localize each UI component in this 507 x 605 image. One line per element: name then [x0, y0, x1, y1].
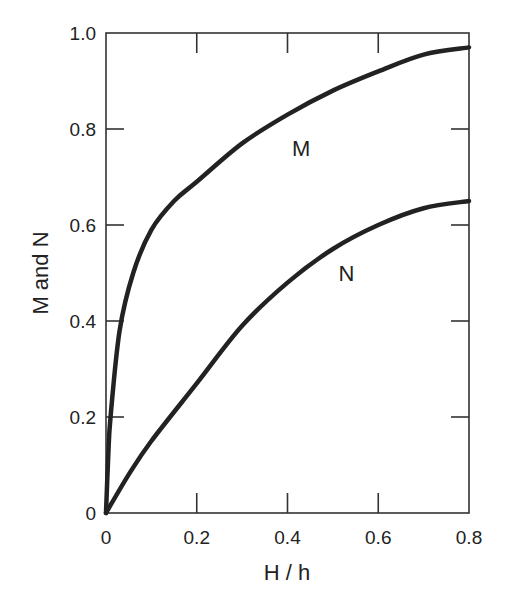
y-tick-label: 0.8: [70, 119, 96, 140]
curve-labels: MN: [292, 136, 354, 286]
x-tick-label: 0: [101, 527, 112, 548]
curve-n: [106, 201, 469, 513]
x-tick-label: 0.2: [184, 527, 210, 548]
y-tick-label: 1.0: [70, 23, 96, 44]
x-axis-label: H / h: [264, 560, 310, 585]
chart: 00.20.40.60.800.20.40.60.81.0 MN H / h M…: [0, 0, 507, 605]
curves: [106, 47, 469, 513]
x-tick-label: 0.6: [365, 527, 391, 548]
y-tick-label: 0.6: [70, 215, 96, 236]
plot-frame: [106, 33, 469, 513]
curve-label-m: M: [292, 136, 310, 161]
y-axis-label: M and N: [28, 231, 53, 314]
x-tick-label: 0.4: [274, 527, 301, 548]
y-tick-label: 0: [85, 503, 96, 524]
x-tick-label: 0.8: [456, 527, 482, 548]
y-tick-label: 0.4: [70, 311, 97, 332]
y-tick-label: 0.2: [70, 407, 96, 428]
axis-ticks: [106, 33, 469, 513]
curve-label-n: N: [339, 261, 355, 286]
